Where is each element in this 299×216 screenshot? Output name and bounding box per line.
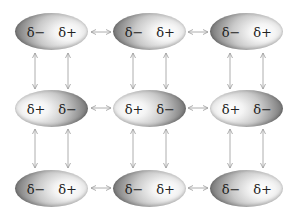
- polar-molecule: δ+ δ−: [15, 90, 88, 127]
- partial-charge-label: δ+: [27, 102, 46, 115]
- polar-molecule: δ− δ+: [113, 13, 186, 50]
- partial-charge-label: δ−: [222, 182, 241, 195]
- partial-charge-label: δ+: [253, 25, 272, 38]
- partial-charge-label: δ−: [58, 102, 77, 115]
- partial-charge-label: δ−: [125, 25, 144, 38]
- partial-charge-label: δ−: [222, 25, 241, 38]
- polar-molecule: δ+ δ−: [113, 90, 186, 127]
- polar-molecule: δ− δ+: [15, 170, 88, 207]
- partial-charge-label: δ−: [125, 182, 144, 195]
- partial-charge-label: δ+: [58, 25, 77, 38]
- partial-charge-label: δ−: [27, 25, 46, 38]
- polar-molecule: δ− δ+: [210, 13, 283, 50]
- partial-charge-label: δ−: [156, 102, 175, 115]
- polar-molecule: δ− δ+: [15, 13, 88, 50]
- partial-charge-label: δ+: [58, 182, 77, 195]
- partial-charge-label: δ+: [222, 102, 241, 115]
- dipole-dipole-diagram: δ− δ+ δ− δ+ δ− δ+ δ+ δ− δ+ δ− δ+ δ− δ− δ…: [0, 0, 299, 216]
- partial-charge-label: δ+: [125, 102, 144, 115]
- partial-charge-label: δ−: [27, 182, 46, 195]
- partial-charge-label: δ+: [156, 182, 175, 195]
- partial-charge-label: δ−: [253, 102, 272, 115]
- polar-molecule: δ− δ+: [210, 170, 283, 207]
- partial-charge-label: δ+: [253, 182, 272, 195]
- polar-molecule: δ+ δ−: [210, 90, 283, 127]
- partial-charge-label: δ+: [156, 25, 175, 38]
- polar-molecule: δ− δ+: [113, 170, 186, 207]
